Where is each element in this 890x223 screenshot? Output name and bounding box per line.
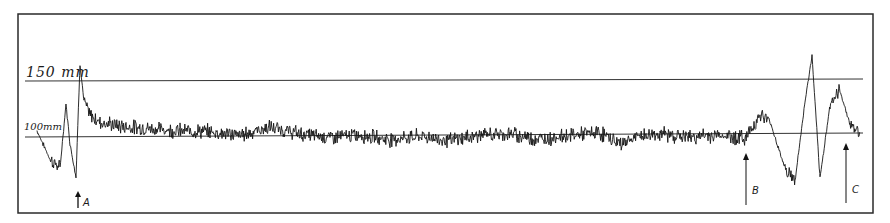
pressure-trace bbox=[37, 55, 860, 185]
arrow-c-icon bbox=[843, 143, 849, 203]
reference-line-150mm bbox=[25, 79, 863, 81]
arrow-b-icon bbox=[743, 153, 749, 205]
reference-line-100mm bbox=[25, 133, 863, 137]
arrow-a-icon bbox=[75, 191, 81, 208]
marker-label-b: B bbox=[752, 185, 759, 196]
marker-label-c: C bbox=[852, 184, 859, 195]
trace-path bbox=[37, 55, 860, 185]
y-label-150mm: 150 mm bbox=[26, 64, 90, 80]
marker-label-a: A bbox=[83, 197, 90, 208]
chart-frame bbox=[18, 14, 873, 213]
y-label-100mm: 100mm bbox=[24, 121, 62, 132]
